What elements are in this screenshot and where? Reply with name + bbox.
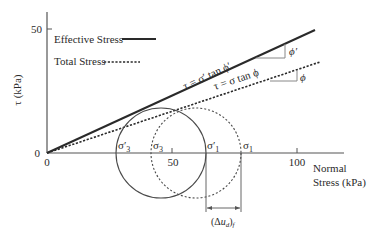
effective-envelope-line	[47, 30, 315, 153]
x-tick-label-0: 0	[44, 156, 50, 168]
y-tick-label-50: 50	[31, 23, 43, 35]
delta-u-arrowhead-right	[235, 206, 240, 210]
y-axis-label: τ (kPa)	[11, 74, 24, 105]
total-angle-label: ϕ	[300, 71, 306, 83]
x-axis-label-line2: Stress (kPa)	[313, 176, 366, 189]
x-tick-label-50: 50	[168, 156, 180, 168]
mohr-circle-diagram: 50 0 τ (kPa) 0 50 100 Normal Stress (kPa…	[0, 0, 376, 242]
delta-u-arrowhead-left	[207, 206, 212, 210]
y-tick-label-0: 0	[35, 147, 41, 159]
x-axis-label-line1: Normal	[313, 162, 347, 174]
sigma1-total-label: σ1	[243, 139, 253, 154]
sigma3-total-label: σ3	[153, 139, 163, 154]
effective-angle-label: ϕ′	[289, 45, 298, 57]
legend-effective-label: Effective Stress	[54, 33, 123, 45]
total-envelope-line	[47, 62, 320, 153]
total-slope-triangle	[270, 71, 297, 81]
x-tick-label-100: 100	[289, 156, 306, 168]
sigma1-effective-label: σ′1	[207, 139, 219, 154]
legend-total-label: Total Stress	[54, 55, 105, 67]
delta-u-label: (Δud)f	[211, 216, 236, 229]
sigma3-effective-label: σ′3	[118, 139, 130, 154]
